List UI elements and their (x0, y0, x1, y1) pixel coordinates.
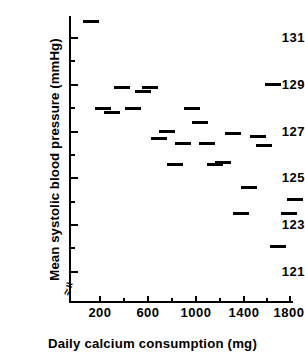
x-tick-1800 (289, 296, 291, 302)
data-point (256, 144, 272, 147)
x-tick-1400 (243, 296, 245, 302)
data-point (167, 163, 183, 166)
y-tick-label-131: 131 (267, 30, 305, 45)
data-point (151, 137, 167, 140)
data-point (159, 130, 175, 133)
x-tick-minor-1200 (219, 298, 221, 302)
data-point (241, 186, 257, 189)
x-tick-minor-1600 (266, 298, 268, 302)
y-tick-label-125: 125 (267, 170, 305, 185)
data-point (215, 161, 231, 164)
x-tick-label-1800: 1800 (259, 305, 305, 320)
y-tick-minor-130 (71, 60, 75, 62)
y-tick-131 (71, 37, 78, 39)
x-tick-minor-400 (123, 298, 125, 302)
x-axis-title: Daily calcium consumption (mg) (0, 336, 305, 351)
data-point (104, 111, 120, 114)
y-tick-minor-122 (71, 247, 75, 249)
x-tick-minor-800 (171, 298, 173, 302)
y-tick-123 (71, 224, 78, 226)
data-point (184, 107, 200, 110)
y-tick-label-123: 123 (267, 217, 305, 232)
y-tick-minor-126 (71, 154, 75, 156)
y-tick-minor-124 (71, 201, 75, 203)
x-tick-200 (99, 296, 101, 302)
y-tick-label-121: 121 (267, 264, 305, 279)
x-axis-line (69, 301, 293, 303)
data-point (95, 107, 111, 110)
data-point (287, 198, 303, 201)
data-point (233, 212, 249, 215)
plot-area: ≈ ≈ 131 129 127 125 123 121 200 600 1000… (0, 0, 305, 330)
x-tick-600 (147, 296, 149, 302)
data-point (125, 107, 141, 110)
y-tick-121 (71, 271, 78, 273)
data-point (135, 90, 151, 93)
data-point (250, 135, 266, 138)
y-tick-129 (71, 84, 78, 86)
data-point (192, 121, 208, 124)
y-tick-125 (71, 177, 78, 179)
data-point (175, 142, 191, 145)
data-point (114, 86, 130, 89)
data-point (281, 212, 297, 215)
data-point (265, 83, 281, 86)
x-tick-1000 (195, 296, 197, 302)
y-tick-minor-128 (71, 107, 75, 109)
chart-figure: Mean systolic blood pressure (mmHg) ≈ ≈ … (0, 0, 305, 362)
y-tick-label-127: 127 (267, 124, 305, 139)
data-point (225, 132, 241, 135)
data-point (199, 142, 215, 145)
data-point (83, 20, 99, 23)
y-tick-127 (71, 131, 78, 133)
data-point (142, 86, 158, 89)
data-point (270, 245, 286, 248)
